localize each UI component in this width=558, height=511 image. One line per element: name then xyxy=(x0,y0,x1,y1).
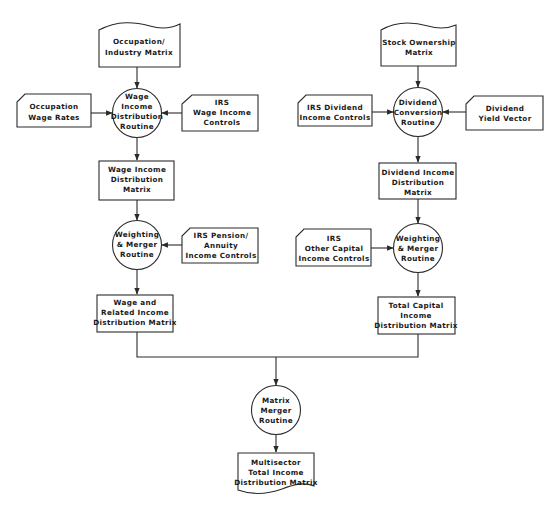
node-label-line: Conversion xyxy=(394,108,443,117)
node-label-line: Matrix xyxy=(405,48,433,57)
node-label-line: & Merger xyxy=(117,240,158,249)
node-multisector-total-income-matrix: Multisector Total Income Distribution Ma… xyxy=(234,453,318,493)
node-label-line: Industry Matrix xyxy=(105,48,173,57)
node-irs-pension-annuity-controls: IRS Pension/ Annuity Income Controls xyxy=(182,228,258,263)
node-irs-other-capital-income-controls: IRS Other Capital Income Controls xyxy=(296,229,371,266)
node-dividend-yield-vector: Dividend Yield Vector xyxy=(466,96,543,130)
node-dividend-conversion-routine: Dividend Conversion Routine xyxy=(394,88,443,137)
node-label-line: Income Controls xyxy=(298,254,369,263)
node-total-capital-income-matrix: Total Capital Income Distribution Matrix xyxy=(374,297,458,334)
node-label-line: Merger xyxy=(260,406,291,415)
node-label-line: Dividend Income xyxy=(382,168,455,177)
node-stock-ownership-matrix: Stock Ownership Matrix xyxy=(381,23,456,66)
node-weighting-merger-routine-right: Weighting & Merger Routine xyxy=(394,224,443,273)
node-label-line: Routine xyxy=(401,254,435,263)
node-label-line: Total Capital xyxy=(388,301,443,310)
node-label-line: Distribution xyxy=(111,175,164,184)
node-label-line: Controls xyxy=(204,118,241,127)
node-label-line: Total Income xyxy=(248,468,304,477)
node-label-line: Routine xyxy=(401,118,435,127)
node-matrix-merger-routine: Matrix Merger Routine xyxy=(252,386,301,435)
node-label-line: Occupation/ xyxy=(113,37,165,46)
node-label-line: Distribution Matrix xyxy=(93,318,177,327)
node-label-line: Routine xyxy=(120,122,154,131)
node-label-line: Income xyxy=(121,102,152,111)
node-label-line: IRS Dividend xyxy=(307,103,363,112)
node-label-line: Wage and xyxy=(114,298,157,307)
node-label-line: Distribution Matrix xyxy=(234,478,318,487)
node-wage-income-distribution-routine: Wage Income Distribution Routine xyxy=(111,89,164,138)
node-label-line: Other Capital xyxy=(305,244,364,253)
node-occupation-industry-matrix: Occupation/ Industry Matrix xyxy=(99,23,180,67)
node-label-line: Distribution xyxy=(392,178,445,187)
node-label-line: Weighting xyxy=(396,234,441,243)
node-label-line: Dividend xyxy=(486,104,525,113)
card-shape xyxy=(466,96,543,130)
node-label-line: Multisector xyxy=(251,458,301,467)
node-wage-income-distribution-matrix: Wage Income Distribution Matrix xyxy=(99,161,174,200)
node-label-line: Wage Income xyxy=(108,165,166,174)
node-label-line: IRS xyxy=(327,234,341,243)
node-label-line: Distribution Matrix xyxy=(374,321,458,330)
node-label-line: Dividend xyxy=(399,98,438,107)
node-label-line: Income Controls xyxy=(299,113,370,122)
node-label-line: Wage xyxy=(125,92,149,101)
node-label-line: Stock Ownership xyxy=(382,38,456,47)
node-label-line: Routine xyxy=(120,250,154,259)
node-occupation-wage-rates: Occupation Wage Rates xyxy=(17,94,91,127)
node-label-line: Income Controls xyxy=(185,251,256,260)
node-label-line: Occupation xyxy=(29,102,78,111)
node-label-line: Matrix xyxy=(123,185,151,194)
node-label-line: Wage Income xyxy=(193,108,251,117)
node-dividend-income-distribution-matrix: Dividend Income Distribution Matrix xyxy=(379,163,456,199)
edge-merge-bus xyxy=(137,332,418,357)
node-label-line: Weighting xyxy=(115,230,160,239)
node-label-line: IRS xyxy=(215,98,229,107)
flowchart: Occupation/ Industry Matrix Occupation W… xyxy=(0,0,558,511)
node-label-line: Matrix xyxy=(262,396,290,405)
node-wage-related-income-matrix: Wage and Related Income Distribution Mat… xyxy=(93,295,177,332)
node-label-line: Income xyxy=(400,311,431,320)
node-weighting-merger-routine-left: Weighting & Merger Routine xyxy=(113,221,162,270)
node-irs-dividend-income-controls: IRS Dividend Income Controls xyxy=(298,95,372,126)
node-label-line: Distribution xyxy=(111,112,164,121)
node-label-line: Routine xyxy=(259,416,293,425)
node-label-line: Related Income xyxy=(101,308,169,317)
node-label-line: Yield Vector xyxy=(477,114,531,123)
node-label-line: & Merger xyxy=(398,244,439,253)
node-label-line: Wage Rates xyxy=(28,113,80,122)
node-label-line: IRS Pension/ xyxy=(194,231,249,240)
node-label-line: Matrix xyxy=(404,188,432,197)
node-irs-wage-income-controls: IRS Wage Income Controls xyxy=(182,95,258,131)
node-label-line: Annuity xyxy=(204,241,238,250)
